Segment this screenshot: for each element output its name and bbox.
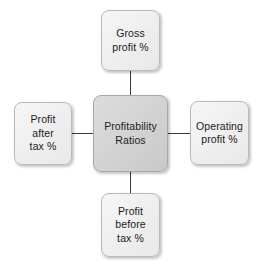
node-operating-profit-label: Operating profit % bbox=[193, 120, 246, 147]
node-profit-before-tax-label: Profit before tax % bbox=[112, 205, 148, 246]
connector-hub-to-top bbox=[130, 71, 131, 96]
node-profitability-ratios-label: Profitability Ratios bbox=[101, 120, 160, 147]
node-gross-profit-label: Gross profit % bbox=[109, 27, 151, 54]
node-profitability-ratios-hub[interactable]: Profitability Ratios bbox=[93, 95, 168, 172]
node-profit-before-tax[interactable]: Profit before tax % bbox=[101, 193, 160, 257]
connector-hub-to-bottom bbox=[130, 171, 131, 194]
node-operating-profit[interactable]: Operating profit % bbox=[190, 101, 249, 165]
node-gross-profit[interactable]: Gross profit % bbox=[101, 10, 160, 71]
node-profit-after-tax-label: Profit after tax % bbox=[27, 113, 60, 154]
connector-hub-to-right bbox=[167, 133, 191, 134]
node-profit-after-tax[interactable]: Profit after tax % bbox=[14, 102, 72, 165]
connector-hub-to-left bbox=[71, 133, 94, 134]
profitability-ratios-diagram: Gross profit % Operating profit % Profit… bbox=[0, 0, 262, 267]
